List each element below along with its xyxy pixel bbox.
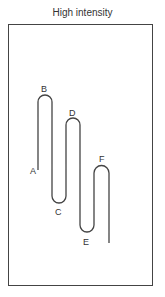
point-label-f: F — [99, 154, 105, 164]
waveform-trace: A B C D E F — [0, 0, 165, 297]
point-label-e: E — [83, 237, 89, 247]
point-label-c: C — [55, 207, 62, 217]
point-label-a: A — [30, 166, 36, 176]
point-label-d: D — [69, 108, 76, 118]
point-label-b: B — [41, 84, 47, 94]
